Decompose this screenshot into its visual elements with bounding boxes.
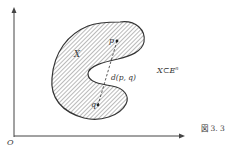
y-axis-arrow-icon	[12, 7, 17, 13]
point-q-dot	[97, 104, 100, 107]
figure-kidney-set-diagram: p q X d(p, q) X⊂En O 図 3. 3	[0, 0, 236, 147]
set-x-label: X	[73, 49, 81, 59]
relation-label-main: X⊂E	[156, 66, 175, 75]
relation-label-superscript: n	[175, 65, 178, 71]
origin-label: O	[7, 138, 14, 147]
point-p-label: p	[109, 36, 114, 45]
point-p-dot	[116, 40, 119, 43]
point-q-label: q	[91, 100, 96, 109]
distance-label: d(p, q)	[111, 73, 136, 82]
figure-caption: 図 3. 3	[201, 124, 225, 133]
relation-label: X⊂En	[156, 65, 178, 75]
x-axis-arrow-icon	[179, 134, 185, 139]
